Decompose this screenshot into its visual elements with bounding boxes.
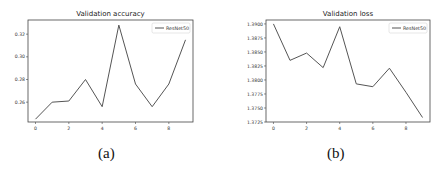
caption-a: (a) bbox=[98, 145, 115, 162]
plot-frame bbox=[266, 20, 430, 122]
y-tick-label: 1.3825 bbox=[247, 64, 263, 69]
x-tick-label: 8 bbox=[405, 126, 408, 131]
y-tick-label: 1.3800 bbox=[247, 78, 263, 83]
x-tick-label: 2 bbox=[305, 126, 308, 131]
chart-title: Validation loss bbox=[323, 10, 374, 18]
y-tick-label: 1.3900 bbox=[247, 22, 263, 27]
x-tick-label: 4 bbox=[338, 126, 341, 131]
x-tick-label: 0 bbox=[272, 126, 275, 131]
chart-validation-loss: Validation loss024681.37251.37501.37751.… bbox=[0, 0, 439, 172]
legend-label: ResNet50 bbox=[403, 26, 426, 31]
y-tick-label: 1.3750 bbox=[247, 106, 263, 111]
y-tick-label: 1.3850 bbox=[247, 50, 263, 55]
y-tick-label: 1.3875 bbox=[247, 36, 263, 41]
y-tick-label: 1.3775 bbox=[247, 92, 263, 97]
y-tick-label: 1.3725 bbox=[247, 120, 263, 125]
caption-b: (b) bbox=[327, 145, 345, 162]
x-tick-label: 6 bbox=[371, 126, 374, 131]
